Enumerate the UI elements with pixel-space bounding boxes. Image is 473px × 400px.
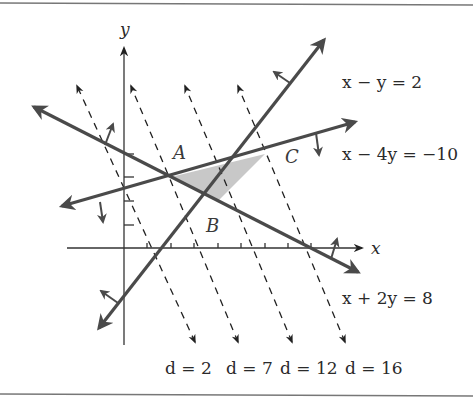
vertex-label-b: B (205, 215, 219, 236)
label-c2: x − 4y = −10 (342, 144, 458, 164)
level-line-d2 (77, 86, 195, 342)
bottom-border (0, 394, 473, 396)
linear-programming-diagram: x y A B C x − y = 2 x − 4y = −10 x + 2y … (0, 0, 473, 400)
label-c1: x − y = 2 (342, 72, 422, 92)
line-x-plus-2y-eq-8 (34, 107, 358, 272)
x-axis-label: x (371, 238, 381, 258)
dir-arrow-c3-right (331, 239, 337, 259)
top-border (0, 3, 473, 5)
dir-arrow-c1-lower (101, 291, 118, 303)
level-line-d16 (238, 86, 345, 342)
label-d12: d = 12 (280, 358, 338, 378)
dir-arrow-c3-left (105, 124, 113, 145)
y-ticks (124, 154, 134, 225)
vertex-label-a: A (171, 142, 186, 163)
level-line-d12 (185, 86, 292, 342)
y-axis-label: y (119, 19, 130, 39)
dir-arrow-c2-left (100, 202, 103, 222)
label-d2: d = 2 (165, 358, 212, 378)
vertex-label-c: C (285, 146, 299, 167)
level-line-d7 (131, 86, 238, 342)
dir-arrow-c1-upper (274, 72, 290, 83)
dir-arrow-c2-right (316, 133, 319, 155)
line-x-minus-y-eq-2 (99, 40, 324, 328)
x-ticks (147, 243, 311, 248)
label-d16: d = 16 (345, 358, 403, 378)
label-c3: x + 2y = 8 (342, 288, 433, 308)
label-d7: d = 7 (226, 358, 273, 378)
